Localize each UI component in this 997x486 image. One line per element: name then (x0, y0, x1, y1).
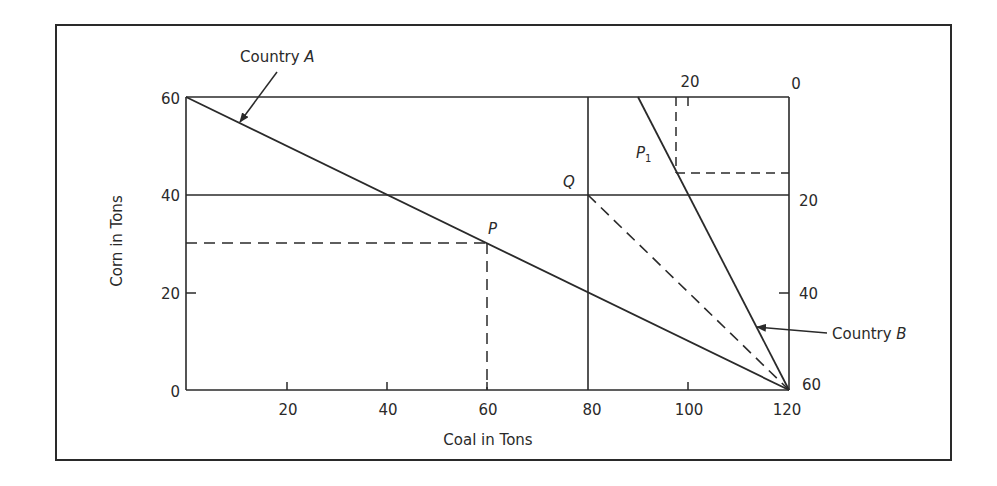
trade-line-dashed (588, 195, 789, 390)
x-tick-label-40: 40 (378, 401, 397, 419)
y-axis-title: Corn in Tons (108, 195, 126, 287)
country-a-label-letter: A (303, 48, 314, 66)
chart-figure: 20 40 60 80 100 120 0 20 40 60 20 0 20 4… (0, 0, 997, 486)
p1-projections (676, 97, 789, 173)
p-projections (186, 243, 487, 390)
country-b-line (638, 97, 789, 390)
x-tick-label-80: 80 (582, 401, 601, 419)
right-tick-label-60: 60 (802, 376, 821, 394)
right-tick-label-40: 40 (799, 285, 818, 303)
top-tick-label-0: 0 (791, 75, 801, 93)
country-a-label-text: Country (240, 48, 304, 66)
point-q-label: Q (563, 173, 575, 191)
country-b-label-text: Country (832, 325, 896, 343)
country-b-arrow-icon (757, 327, 827, 333)
right-tick-label-20: 20 (799, 192, 818, 210)
chart-svg: 20 40 60 80 100 120 0 20 40 60 20 0 20 4… (0, 0, 997, 486)
x-tick-label-120: 120 (773, 401, 802, 419)
country-b-label: Country B (832, 325, 907, 343)
top-tick-label-20: 20 (680, 73, 699, 91)
point-p1-label: P1 (636, 144, 651, 164)
x-tick-label-100: 100 (675, 401, 704, 419)
y-tick-label-20: 20 (161, 285, 180, 303)
y-tick-label-0: 0 (170, 383, 180, 401)
y-tick-label-60: 60 (161, 90, 180, 108)
y-tick-label-40: 40 (161, 187, 180, 205)
point-p1-subscript: 1 (645, 153, 651, 164)
x-tick-label-60: 60 (478, 401, 497, 419)
point-p-label: P (488, 220, 498, 238)
country-a-label: Country A (240, 48, 315, 66)
x-axis-title: Coal in Tons (443, 431, 533, 449)
country-b-label-letter: B (896, 325, 906, 343)
x-tick-label-20: 20 (278, 401, 297, 419)
